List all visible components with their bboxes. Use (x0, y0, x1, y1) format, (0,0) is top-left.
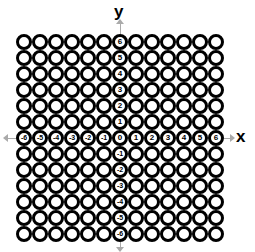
grid-circle (80, 210, 96, 226)
grid-circle (160, 98, 176, 114)
grid-circle (32, 82, 48, 98)
grid-circle (48, 82, 64, 98)
grid-circle (128, 178, 144, 194)
grid-circle (48, 178, 64, 194)
circle-icon (208, 114, 224, 130)
tick-label: 3 (160, 130, 176, 146)
grid-circle (208, 82, 224, 98)
circle-icon (192, 34, 208, 50)
grid-circle (160, 114, 176, 130)
grid-circle: -5 (32, 130, 48, 146)
circle-icon (64, 82, 80, 98)
circle-icon (48, 146, 64, 162)
grid-circle (176, 194, 192, 210)
circle-icon (160, 114, 176, 130)
circle-icon (64, 66, 80, 82)
grid-circle (144, 114, 160, 130)
grid-circle: -1 (112, 146, 128, 162)
grid-circle (192, 34, 208, 50)
arrow-right-icon (230, 134, 235, 142)
grid-circle (128, 66, 144, 82)
tick-label: 5 (112, 50, 128, 66)
grid-circle (96, 34, 112, 50)
grid-circle (48, 194, 64, 210)
grid-circle (48, 162, 64, 178)
circle-icon (176, 50, 192, 66)
grid-circle (64, 226, 80, 242)
grid-circle: 4 (112, 66, 128, 82)
grid-circle (64, 66, 80, 82)
grid-circle (16, 226, 32, 242)
circle-icon (160, 162, 176, 178)
circle-icon (128, 146, 144, 162)
grid-circle (64, 146, 80, 162)
grid-circle (32, 210, 48, 226)
grid-circle (80, 66, 96, 82)
circle-icon (144, 82, 160, 98)
circle-icon (208, 82, 224, 98)
circle-icon (64, 210, 80, 226)
circle-icon (208, 162, 224, 178)
circle-icon (192, 146, 208, 162)
circle-icon (64, 226, 80, 242)
grid-circle (208, 50, 224, 66)
grid-circle (176, 66, 192, 82)
tick-label: 2 (112, 98, 128, 114)
circle-icon (48, 162, 64, 178)
grid-circle: 5 (192, 130, 208, 146)
grid-circle: -5 (112, 210, 128, 226)
grid-circle (32, 98, 48, 114)
grid-circle (48, 146, 64, 162)
grid-circle (64, 82, 80, 98)
tick-label: -4 (112, 194, 128, 210)
circle-icon (16, 82, 32, 98)
circle-icon (176, 178, 192, 194)
grid-circle (160, 50, 176, 66)
circle-icon (48, 34, 64, 50)
grid-circle (64, 178, 80, 194)
grid-circle (16, 114, 32, 130)
circle-icon (80, 146, 96, 162)
grid-circle (64, 114, 80, 130)
circle-icon (128, 98, 144, 114)
y-axis-label: y (114, 3, 123, 20)
tick-label: 2 (144, 130, 160, 146)
grid-circle (208, 162, 224, 178)
grid-circle (16, 210, 32, 226)
circle-icon (144, 162, 160, 178)
grid-circle (208, 210, 224, 226)
circle-icon (96, 66, 112, 82)
grid-circle (32, 146, 48, 162)
grid-circle (64, 194, 80, 210)
circle-icon (32, 194, 48, 210)
circle-icon (48, 210, 64, 226)
grid-circle (16, 82, 32, 98)
grid-circle (192, 162, 208, 178)
circle-icon (16, 146, 32, 162)
circle-icon (80, 114, 96, 130)
circle-icon (208, 98, 224, 114)
tick-label: -3 (64, 130, 80, 146)
grid-circle (128, 146, 144, 162)
circle-icon (144, 178, 160, 194)
circle-icon (128, 114, 144, 130)
circle-icon (176, 114, 192, 130)
circle-icon (96, 162, 112, 178)
grid-circle (160, 82, 176, 98)
grid-circle: -4 (112, 194, 128, 210)
circle-icon (128, 34, 144, 50)
circle-icon (144, 50, 160, 66)
grid-circle: -3 (112, 178, 128, 194)
tick-label: 1 (112, 114, 128, 130)
circle-icon (144, 66, 160, 82)
circle-icon (80, 178, 96, 194)
grid-circle: -3 (64, 130, 80, 146)
tick-label: -1 (96, 130, 112, 146)
arrow-left-icon (3, 134, 8, 142)
tick-label: 1 (128, 130, 144, 146)
grid-circle (176, 178, 192, 194)
circle-icon (48, 194, 64, 210)
circle-icon (32, 178, 48, 194)
circle-icon (80, 226, 96, 242)
circle-icon (32, 66, 48, 82)
